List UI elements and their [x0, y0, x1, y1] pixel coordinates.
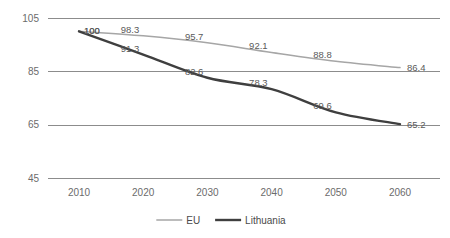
x-tick-label-2030: 2030	[196, 187, 219, 198]
data-label-eu-2020: 98.3	[121, 24, 140, 35]
data-label-eu-2040: 92.1	[249, 40, 268, 51]
legend-label-eu: EU	[186, 215, 200, 226]
x-tick-label-2020: 2020	[132, 187, 155, 198]
data-label-lithuania-2040: 78.3	[249, 77, 268, 88]
y-tick-label-45: 45	[28, 173, 40, 184]
x-tick-label-2010: 2010	[68, 187, 91, 198]
x-tick-label-2060: 2060	[389, 187, 412, 198]
y-axis-tick-labels: 105856545	[22, 13, 39, 184]
data-label-eu-2060: 86.4	[407, 62, 426, 73]
data-label-eu-2050: 88.8	[313, 49, 332, 60]
legend-label-lithuania: Lithuania	[245, 215, 286, 226]
data-label-lithuania-2010: 100	[84, 25, 100, 36]
data-label-lithuania-2050: 69.6	[313, 100, 332, 111]
chart-canvas: 105856545 201020202030204020502060 10098…	[0, 0, 450, 238]
x-tick-label-2050: 2050	[325, 187, 348, 198]
y-tick-label-105: 105	[22, 13, 39, 24]
data-label-lithuania-2020: 91.3	[121, 43, 140, 54]
chart-legend: EULithuania	[156, 215, 286, 226]
x-tick-label-2040: 2040	[260, 187, 283, 198]
y-tick-label-65: 65	[28, 119, 40, 130]
data-label-lithuania-2030: 82.6	[185, 66, 204, 77]
data-label-lithuania-2060: 65.2	[407, 119, 426, 130]
y-tick-label-85: 85	[28, 66, 40, 77]
line-chart: 105856545 201020202030204020502060 10098…	[0, 0, 450, 238]
data-point-labels: 10098.395.792.188.886.410091.382.678.369…	[84, 24, 426, 130]
x-axis-tick-labels: 201020202030204020502060	[68, 187, 412, 198]
data-label-eu-2030: 95.7	[185, 31, 204, 42]
